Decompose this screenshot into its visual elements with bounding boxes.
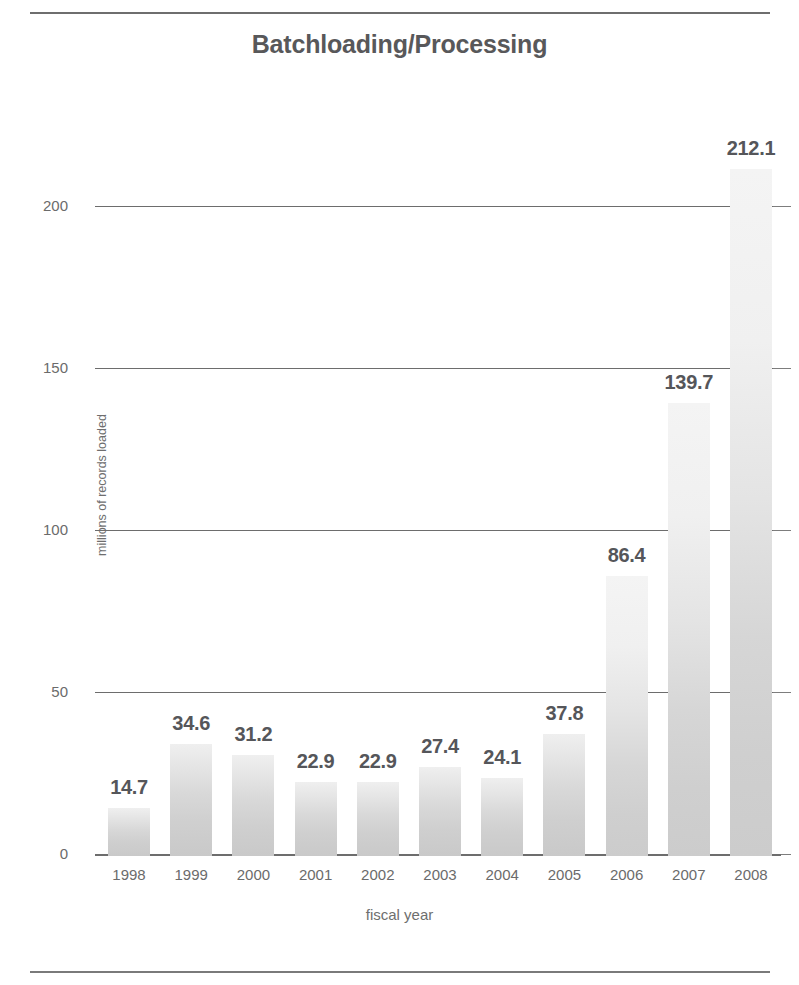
y-axis-title: millions of records loaded	[95, 375, 109, 595]
bar-2000[interactable]	[232, 755, 274, 856]
y-axis-tick-label: 100	[0, 521, 68, 538]
y-axis-tick-label: 200	[0, 197, 68, 214]
bar-value-label-1998: 14.7	[88, 776, 170, 799]
plot-area: 05010015020014.734.631.222.922.927.424.1…	[95, 125, 780, 856]
chart-title: Batchloading/Processing	[0, 30, 799, 59]
gridline	[95, 368, 780, 369]
bar-2001[interactable]	[295, 782, 337, 856]
bar-1999[interactable]	[170, 744, 212, 856]
bar-value-label-2000: 31.2	[212, 723, 294, 746]
y-axis-tick-label: 50	[0, 683, 68, 700]
bar-value-label-2008: 212.1	[710, 137, 792, 160]
y-axis-right-tick	[773, 206, 791, 207]
gridline	[95, 206, 780, 207]
bar-1998[interactable]	[108, 808, 150, 856]
bar-value-label-2007: 139.7	[648, 371, 730, 394]
bar-value-label-2006: 86.4	[586, 544, 668, 567]
x-axis-tick-label-2008: 2008	[710, 866, 792, 883]
page-top-rule	[30, 12, 770, 14]
bar-2005[interactable]	[543, 734, 585, 856]
bar-2002[interactable]	[357, 782, 399, 856]
bar-value-label-2004: 24.1	[461, 746, 543, 769]
bar-2008[interactable]	[730, 169, 772, 856]
bar-2006[interactable]	[606, 576, 648, 856]
y-axis-right-tick	[773, 530, 791, 531]
bar-2007[interactable]	[668, 403, 710, 856]
x-axis-title: fiscal year	[0, 906, 799, 923]
y-axis-right-tick	[773, 368, 791, 369]
y-axis-tick-label: 0	[0, 845, 68, 862]
y-axis-right-tick	[773, 692, 791, 693]
y-axis-tick-label: 150	[0, 359, 68, 376]
bar-2004[interactable]	[481, 778, 523, 856]
page-bottom-rule	[30, 971, 770, 973]
bar-value-label-2005: 37.8	[523, 702, 605, 725]
bar-2003[interactable]	[419, 767, 461, 856]
